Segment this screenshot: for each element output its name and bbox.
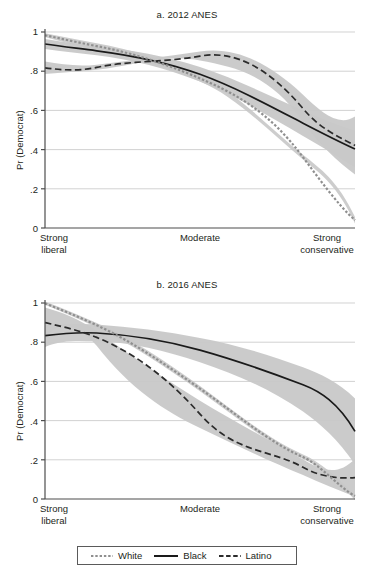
legend-item-white[interactable]: White — [85, 550, 148, 561]
ci-band-black — [45, 324, 355, 465]
xtick-center-line1: Moderate — [180, 503, 220, 514]
xtick-left-line2: liberal — [41, 244, 66, 255]
panel-b-plot — [0, 271, 374, 521]
panel-b-xtick-center: Moderate — [160, 503, 240, 515]
panel-a-ci-bands — [45, 33, 355, 223]
panel-a-xtick-right: Strong conservative — [282, 232, 372, 255]
legend-label-black: Black — [183, 550, 206, 561]
panel-2016: b. 2016 ANES Pr (Democrat) 1 .8 .6 .4 .2… — [0, 271, 374, 541]
xtick-right-line1: Strong — [313, 503, 341, 514]
panel-a-xtick-center: Moderate — [160, 232, 240, 244]
legend-item-black[interactable]: Black — [148, 550, 212, 561]
xtick-right-line2: conservative — [300, 244, 353, 255]
xtick-center-line1: Moderate — [180, 232, 220, 243]
xtick-right-line2: conservative — [300, 515, 353, 526]
xtick-right-line1: Strong — [313, 232, 341, 243]
legend-label-white: White — [118, 550, 142, 561]
xtick-left-line2: liberal — [41, 515, 66, 526]
panel-b-xtick-right: Strong conservative — [282, 503, 372, 526]
xtick-left-line1: Strong — [40, 232, 68, 243]
panel-a-plot — [0, 0, 374, 250]
legend-swatch-white — [91, 552, 113, 560]
xtick-left-line1: Strong — [40, 503, 68, 514]
legend-swatch-black — [154, 552, 178, 560]
panel-a-xtick-left: Strong liberal — [16, 232, 92, 255]
legend-item-latino[interactable]: Latino — [213, 550, 278, 561]
legend-label-latino: Latino — [246, 550, 272, 561]
panel-b-xtick-left: Strong liberal — [16, 503, 92, 526]
panel-2012: a. 2012 ANES Pr (Democrat) 1 .8 .6 .4 .2… — [0, 0, 374, 270]
chart-legend: White Black Latino — [77, 546, 297, 565]
panel-b-ci-bands — [45, 302, 355, 500]
legend-swatch-latino — [219, 552, 241, 560]
figure-root: a. 2012 ANES Pr (Democrat) 1 .8 .6 .4 .2… — [0, 0, 374, 578]
